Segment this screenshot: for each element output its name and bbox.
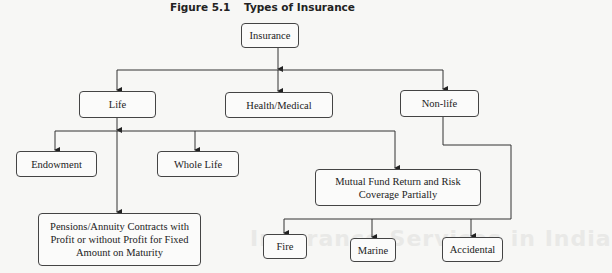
node-fire: Fire (263, 234, 307, 259)
node-mutual-fund: Mutual Fund Return and Risk Coverage Par… (315, 169, 481, 206)
node-non-life: Non-life (400, 90, 479, 117)
node-insurance: Insurance (241, 23, 299, 48)
node-endowment: Endowment (16, 151, 97, 177)
node-accidental: Accidental (442, 237, 503, 262)
node-health-medical: Health/Medical (225, 92, 333, 118)
node-life: Life (79, 91, 156, 118)
node-whole-life: Whole Life (157, 151, 239, 177)
node-pensions-annuity: Pensions/Annuity Contracts with Profit o… (38, 213, 201, 266)
node-marine: Marine (350, 238, 396, 262)
